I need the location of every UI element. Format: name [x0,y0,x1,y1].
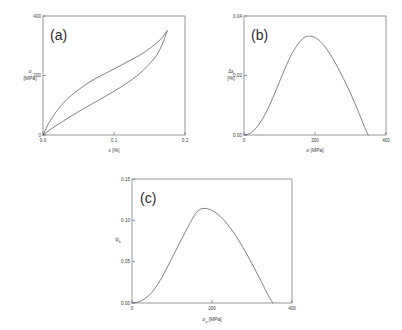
panel-c-ytick-005: 0.05 [121,259,130,264]
panel-a-xticks: 0.0 0.1 0.2 [40,132,189,143]
panel-b-tag: (b) [251,27,268,43]
panel-a-ytick-400: 400 [33,14,41,19]
panel-b-yticks: 0.00 0.02 0.04 [233,14,247,138]
panel-b-xtick-200: 200 [311,138,319,143]
panel-b: (b) 0.00 0.02 0.04 0 200 400 σ [MPa] Δε … [200,0,402,165]
panel-a-plot: (a) 0 200 400 0.0 0.1 0.2 ε [%] σ [MPa] [0,0,201,165]
panel-a-yaxis-label-unit: [MPa] [23,75,37,81]
panel-b-plot: (b) 0.00 0.02 0.04 0 200 400 σ [MPa] Δε … [200,0,402,165]
panel-a: (a) 0 200 400 0.0 0.1 0.2 ε [%] σ [MPa] [0,0,201,165]
panel-a-xaxis-label: ε [%] [109,147,120,153]
panel-c-yaxis-label: ψb [115,236,121,244]
panel-b-xtick-0: 0 [243,138,246,143]
panel-c-plot: (c) 0.00 0.05 0.10 0.15 0 200 400 σa [MP… [90,165,320,330]
figure-three-panel: (a) 0 200 400 0.0 0.1 0.2 ε [%] σ [MPa] [0,0,402,330]
panel-b-xticks: 0 200 400 [243,132,391,143]
panel-b-ytick-004: 0.04 [233,14,242,19]
panel-a-tag: (a) [50,27,67,43]
panel-c-xaxis-unit: [MPa] [207,316,222,322]
panel-b-curve [244,36,368,135]
panel-c-ytick-010: 0.10 [121,218,130,223]
panel-c: (c) 0.00 0.05 0.10 0.15 0 200 400 σa [MP… [90,165,320,330]
panel-a-unloading-curve [43,31,167,135]
panel-c-ytick-015: 0.15 [121,177,130,182]
panel-b-yaxis-label-unit: [%] [227,75,235,81]
panel-c-tag: (c) [140,190,156,206]
panel-c-xtick-0: 0 [131,306,134,311]
panel-a-yaxis-label-symbol: σ [28,68,32,74]
panel-c-xticks: 0 200 400 [131,300,297,311]
panel-a-xtick-0: 0.0 [40,138,47,143]
panel-b-yaxis-label-symbol: Δε [228,68,234,74]
panel-b-ytick-0: 0.00 [233,133,242,138]
panel-c-ytick-000: 0.00 [121,301,130,306]
panel-c-yaxis-subscript: b [119,240,121,244]
panel-c-xaxis-label: σa [MPa] [202,316,222,324]
panel-a-xtick-2: 0.2 [182,138,189,143]
panel-b-xaxis-label: σ [MPa] [306,147,324,153]
panel-a-loading-curve [43,31,167,135]
panel-c-xtick-200: 200 [208,306,216,311]
panel-c-yticks: 0.00 0.05 0.10 0.15 [121,177,135,306]
panel-c-xtick-400: 400 [288,306,296,311]
panel-c-curve [132,208,273,303]
panel-a-xtick-1: 0.1 [111,138,118,143]
panel-b-xtick-400: 400 [382,138,390,143]
